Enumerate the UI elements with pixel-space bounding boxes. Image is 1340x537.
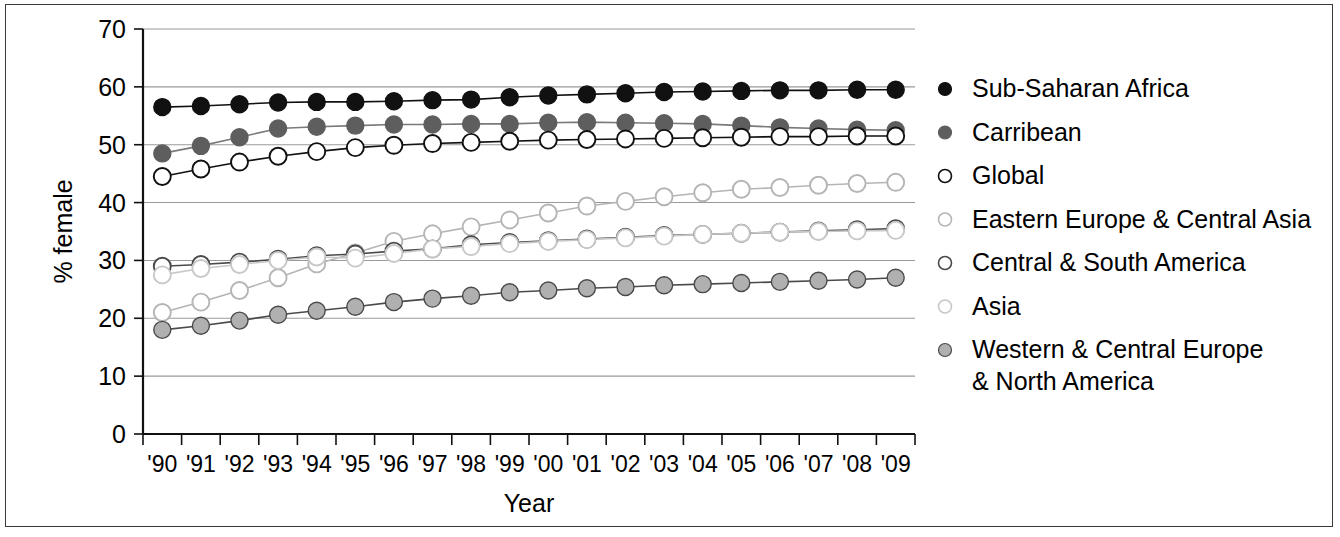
data-point[interactable] <box>733 82 750 99</box>
data-point[interactable] <box>694 83 711 100</box>
data-point[interactable] <box>733 225 750 242</box>
data-point[interactable] <box>231 312 248 329</box>
data-point[interactable] <box>540 233 557 250</box>
data-point[interactable] <box>154 304 171 321</box>
data-point[interactable] <box>154 145 171 162</box>
data-point[interactable] <box>617 130 634 147</box>
data-point[interactable] <box>733 181 750 198</box>
data-point[interactable] <box>771 224 788 241</box>
data-point[interactable] <box>270 252 287 269</box>
data-point[interactable] <box>347 139 364 156</box>
data-point[interactable] <box>347 298 364 315</box>
data-point[interactable] <box>308 248 325 265</box>
legend-marker-2[interactable] <box>939 170 952 183</box>
data-point[interactable] <box>424 135 441 152</box>
data-point[interactable] <box>887 81 904 98</box>
data-point[interactable] <box>617 229 634 246</box>
data-point[interactable] <box>308 93 325 110</box>
data-point[interactable] <box>192 317 209 334</box>
data-point[interactable] <box>501 115 518 132</box>
data-point[interactable] <box>771 82 788 99</box>
data-point[interactable] <box>231 256 248 273</box>
data-point[interactable] <box>463 115 480 132</box>
data-point[interactable] <box>270 269 287 286</box>
data-point[interactable] <box>231 282 248 299</box>
data-point[interactable] <box>154 168 171 185</box>
data-point[interactable] <box>308 118 325 135</box>
data-point[interactable] <box>733 274 750 291</box>
data-point[interactable] <box>694 129 711 146</box>
data-point[interactable] <box>463 91 480 108</box>
data-point[interactable] <box>771 128 788 145</box>
data-point[interactable] <box>270 306 287 323</box>
data-point[interactable] <box>887 222 904 239</box>
data-point[interactable] <box>771 273 788 290</box>
data-point[interactable] <box>154 99 171 116</box>
data-point[interactable] <box>231 154 248 171</box>
data-point[interactable] <box>849 175 866 192</box>
data-point[interactable] <box>192 97 209 114</box>
data-point[interactable] <box>385 294 402 311</box>
data-point[interactable] <box>347 250 364 267</box>
data-point[interactable] <box>810 128 827 145</box>
data-point[interactable] <box>231 96 248 113</box>
data-point[interactable] <box>347 117 364 134</box>
data-point[interactable] <box>540 204 557 221</box>
data-point[interactable] <box>270 148 287 165</box>
data-point[interactable] <box>270 94 287 111</box>
data-point[interactable] <box>308 143 325 160</box>
data-point[interactable] <box>424 290 441 307</box>
data-point[interactable] <box>385 245 402 262</box>
data-point[interactable] <box>192 294 209 311</box>
data-point[interactable] <box>849 271 866 288</box>
data-point[interactable] <box>192 137 209 154</box>
data-point[interactable] <box>385 137 402 154</box>
data-point[interactable] <box>501 284 518 301</box>
data-point[interactable] <box>849 222 866 239</box>
data-point[interactable] <box>540 132 557 149</box>
data-point[interactable] <box>501 211 518 228</box>
data-point[interactable] <box>385 93 402 110</box>
data-point[interactable] <box>463 218 480 235</box>
data-point[interactable] <box>810 223 827 240</box>
data-point[interactable] <box>810 177 827 194</box>
legend-marker-4[interactable] <box>939 257 952 270</box>
data-point[interactable] <box>540 87 557 104</box>
data-point[interactable] <box>424 240 441 257</box>
data-point[interactable] <box>347 93 364 110</box>
data-point[interactable] <box>656 228 673 245</box>
data-point[interactable] <box>308 302 325 319</box>
data-point[interactable] <box>540 282 557 299</box>
data-point[interactable] <box>578 198 595 215</box>
data-point[interactable] <box>656 130 673 147</box>
legend-marker-6[interactable] <box>939 344 952 357</box>
data-point[interactable] <box>540 114 557 131</box>
data-point[interactable] <box>887 174 904 191</box>
data-point[interactable] <box>771 179 788 196</box>
data-point[interactable] <box>501 235 518 252</box>
legend-marker-5[interactable] <box>939 300 952 313</box>
data-point[interactable] <box>656 188 673 205</box>
legend-marker-1[interactable] <box>939 126 952 139</box>
legend-marker-3[interactable] <box>939 213 952 226</box>
data-point[interactable] <box>424 116 441 133</box>
data-point[interactable] <box>578 114 595 131</box>
data-point[interactable] <box>887 128 904 145</box>
data-point[interactable] <box>424 92 441 109</box>
data-point[interactable] <box>694 184 711 201</box>
data-point[interactable] <box>501 133 518 150</box>
data-point[interactable] <box>270 120 287 137</box>
data-point[interactable] <box>154 321 171 338</box>
data-point[interactable] <box>192 161 209 178</box>
data-point[interactable] <box>887 269 904 286</box>
data-point[interactable] <box>385 116 402 133</box>
data-point[interactable] <box>656 277 673 294</box>
data-point[interactable] <box>617 193 634 210</box>
data-point[interactable] <box>463 238 480 255</box>
data-point[interactable] <box>617 85 634 102</box>
data-point[interactable] <box>617 279 634 296</box>
data-point[interactable] <box>463 287 480 304</box>
data-point[interactable] <box>617 114 634 131</box>
data-point[interactable] <box>154 266 171 283</box>
data-point[interactable] <box>849 128 866 145</box>
